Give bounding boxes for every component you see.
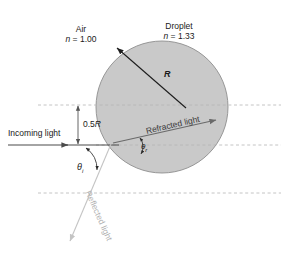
radius-label: R [164, 69, 171, 80]
air-label-group: Air n = 1.00 [58, 24, 104, 44]
theta-refraction-subscript: r [145, 147, 147, 153]
theta-refraction-label: θr [141, 142, 147, 154]
air-index-value: = 1.00 [70, 34, 96, 44]
air-label: Air [58, 24, 104, 34]
droplet-index-label: n = 1.33 [153, 31, 205, 41]
droplet-label: Droplet [153, 21, 205, 31]
droplet-label-group: Droplet n = 1.33 [153, 21, 205, 41]
impact-parameter-value: 0.5 [83, 119, 95, 129]
droplet-circle [96, 41, 228, 173]
air-index-label: n = 1.00 [58, 34, 104, 44]
theta-incidence-label: θi [77, 162, 83, 175]
theta-incidence-subscript: i [82, 168, 83, 174]
optics-diagram-figure: Air n = 1.00 Droplet n = 1.33 R 0.5R Inc… [0, 0, 287, 255]
theta-incidence-arc [86, 148, 97, 170]
impact-parameter-symbol: R [95, 119, 101, 129]
impact-parameter-label: 0.5R [83, 119, 101, 129]
incoming-light-label: Incoming light [8, 128, 60, 138]
droplet-index-value: = 1.33 [168, 31, 194, 41]
